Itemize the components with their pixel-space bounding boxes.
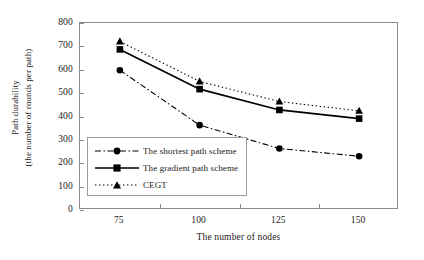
x-axis-title: The number of nodes bbox=[79, 232, 398, 242]
plot-area: The shortest path scheme The gradient pa… bbox=[79, 22, 398, 209]
series-line-triangle bbox=[120, 41, 359, 110]
x-tick-mark bbox=[160, 204, 161, 208]
y-axis-title-line1: Path durability bbox=[10, 49, 23, 167]
legend-label-shortest-path: The shortest path scheme bbox=[140, 146, 237, 156]
x-tick-mark bbox=[240, 204, 241, 208]
x-tick-label: 150 bbox=[338, 215, 378, 225]
x-tick-label: 100 bbox=[179, 215, 219, 225]
y-tick-label: 100 bbox=[37, 181, 73, 191]
data-point-triangle bbox=[355, 107, 363, 114]
data-point-circle bbox=[276, 145, 283, 152]
x-tick-mark bbox=[319, 204, 320, 208]
y-tick-mark bbox=[80, 140, 84, 141]
data-point-triangle bbox=[196, 77, 204, 84]
x-tick-label: 75 bbox=[99, 215, 139, 225]
y-tick-mark bbox=[80, 23, 84, 24]
y-tick-mark bbox=[80, 70, 84, 71]
series-line-square bbox=[120, 49, 359, 118]
y-tick-label: 0 bbox=[37, 204, 73, 214]
legend: The shortest path scheme The gradient pa… bbox=[87, 137, 247, 196]
y-tick-label: 400 bbox=[37, 111, 73, 121]
y-axis-title-line2: (the number of rounds per path) bbox=[22, 49, 35, 167]
data-point-square bbox=[196, 86, 203, 93]
legend-sample-solid-square-icon bbox=[94, 161, 140, 175]
x-tick-label: 125 bbox=[258, 215, 298, 225]
data-point-circle bbox=[356, 153, 363, 160]
data-point-square bbox=[117, 46, 124, 53]
legend-sample-dotted-triangle-icon bbox=[94, 178, 140, 192]
data-point-square bbox=[276, 107, 283, 114]
y-tick-mark bbox=[80, 187, 84, 188]
y-tick-label: 800 bbox=[37, 17, 73, 27]
legend-label-gradient-path: The gradient path scheme bbox=[140, 163, 238, 173]
y-tick-mark bbox=[80, 163, 84, 164]
y-tick-mark bbox=[80, 93, 84, 94]
legend-sample-dashdot-circle-icon bbox=[94, 144, 140, 158]
y-tick-label: 600 bbox=[37, 64, 73, 74]
legend-item-gradient-path: The gradient path scheme bbox=[88, 159, 246, 176]
data-point-circle bbox=[196, 122, 203, 129]
y-tick-label: 500 bbox=[37, 87, 73, 97]
y-tick-mark bbox=[80, 210, 84, 211]
y-tick-label: 700 bbox=[37, 40, 73, 50]
data-point-triangle bbox=[116, 37, 124, 44]
y-tick-mark bbox=[80, 117, 84, 118]
y-tick-label: 300 bbox=[37, 134, 73, 144]
data-point-triangle bbox=[275, 97, 283, 104]
legend-label-cegt: CEGT bbox=[140, 180, 167, 190]
data-point-square bbox=[356, 115, 363, 122]
y-axis-title: Path durability (the number of rounds pe… bbox=[2, 0, 42, 215]
y-tick-mark bbox=[80, 46, 84, 47]
legend-item-shortest-path: The shortest path scheme bbox=[88, 142, 246, 159]
legend-item-cegt: CEGT bbox=[88, 176, 246, 193]
y-tick-label: 200 bbox=[37, 157, 73, 167]
chart-figure: Path durability (the number of rounds pe… bbox=[0, 0, 424, 260]
data-point-circle bbox=[117, 67, 124, 74]
